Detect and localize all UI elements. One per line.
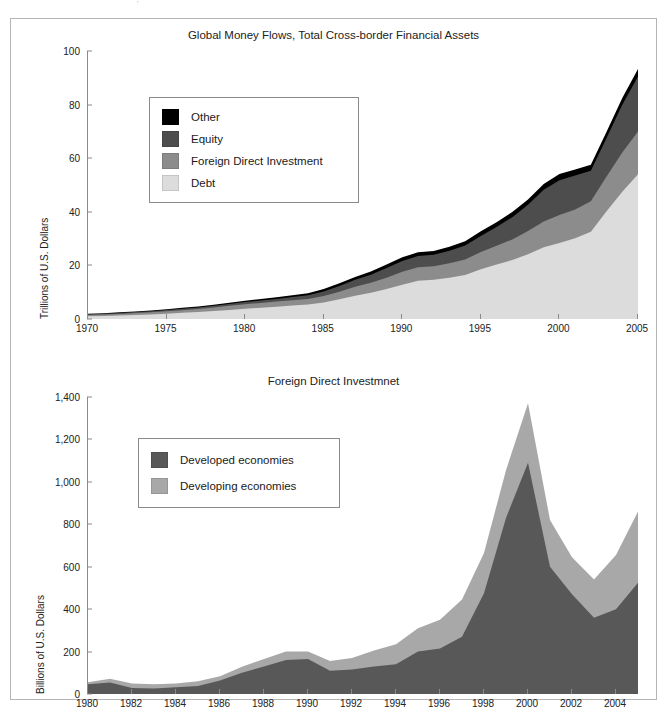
x-tick-mark	[395, 689, 396, 694]
x-tick-mark	[131, 689, 132, 694]
y-tick-label: 1,400	[55, 392, 87, 403]
x-tick-mark	[558, 314, 559, 319]
x-tick-label: 2000	[547, 323, 569, 334]
legend-label-equity: Equity	[191, 133, 223, 145]
x-tick-mark	[483, 689, 484, 694]
x-tick-mark	[527, 689, 528, 694]
x-tick-mark	[323, 314, 324, 319]
x-tick-label: 2000	[516, 698, 538, 709]
x-tick-label: 1992	[340, 698, 362, 709]
x-tick-mark	[307, 689, 308, 694]
legend-label-developing-economies: Developing economies	[180, 480, 296, 492]
x-tick-label: 1995	[469, 323, 491, 334]
x-tick-mark	[166, 314, 167, 319]
x-tick-label: 1998	[472, 698, 494, 709]
legend-item-debt[interactable]: Debt	[162, 172, 346, 194]
legend-swatch-debt	[162, 175, 179, 191]
x-tick-mark	[615, 689, 616, 694]
legend-item-equity[interactable]: Equity	[162, 128, 346, 150]
x-tick-mark	[480, 314, 481, 319]
legend-swatch-developed-economies	[151, 452, 168, 468]
legend-item-developed-economies[interactable]: Developed economies	[151, 447, 327, 473]
x-tick-label: 1990	[390, 323, 412, 334]
y-tick-label: 60	[69, 153, 87, 164]
legend-item-other[interactable]: Other	[162, 106, 346, 128]
legend-top: Other Equity Foreign Direct Investment D…	[149, 97, 359, 203]
legend-swatch-other	[162, 109, 179, 125]
x-tick-mark	[401, 314, 402, 319]
x-tick-label: 1994	[384, 698, 406, 709]
x-tick-label: 1975	[154, 323, 176, 334]
x-tick-label: 1986	[208, 698, 230, 709]
y-tick-label: 20	[69, 260, 87, 271]
figure-frame: Global Money Flows, Total Cross-border F…	[10, 18, 657, 700]
x-tick-mark	[87, 689, 88, 694]
y-tick-label: 600	[63, 561, 87, 572]
x-tick-label: 2004	[604, 698, 626, 709]
y-tick-mark	[87, 524, 92, 525]
legend-bottom: Developed economies Developing economies	[138, 438, 340, 508]
chart-panel-global-money-flows: Global Money Flows, Total Cross-border F…	[11, 19, 656, 349]
y-tick-label: 1,000	[55, 476, 87, 487]
x-tick-mark	[351, 689, 352, 694]
chart-title-top: Global Money Flows, Total Cross-border F…	[11, 29, 656, 41]
y-tick-mark	[87, 104, 92, 105]
x-tick-label: 1990	[296, 698, 318, 709]
x-tick-label: 1980	[233, 323, 255, 334]
legend-swatch-equity	[162, 131, 179, 147]
legend-item-fdi[interactable]: Foreign Direct Investment	[162, 150, 346, 172]
legend-label-debt: Debt	[191, 177, 215, 189]
y-tick-mark	[87, 51, 92, 52]
x-tick-label: 2002	[560, 698, 582, 709]
x-tick-label: 1982	[120, 698, 142, 709]
y-tick-label: 100	[63, 46, 87, 57]
y-tick-label: 200	[63, 646, 87, 657]
y-tick-label: 40	[69, 206, 87, 217]
x-tick-mark	[439, 689, 440, 694]
x-tick-label: 2005	[626, 323, 648, 334]
y-tick-mark	[87, 211, 92, 212]
y-axis-label-top: Trillions of U.S. Dollars	[39, 218, 50, 319]
x-tick-mark	[637, 314, 638, 319]
y-tick-mark	[87, 265, 92, 266]
y-tick-label: 400	[63, 604, 87, 615]
y-tick-mark	[87, 651, 92, 652]
page-header-fragment: · ···· ··· ·· ·· ··· ··· ,	[60, 0, 139, 4]
x-tick-label: 1980	[76, 698, 98, 709]
y-axis-label-bottom: Billions of U.S. Dollars	[35, 595, 46, 694]
chart-title-bottom: Foreign Direct Investmnet	[11, 375, 656, 387]
x-tick-label: 1988	[252, 698, 274, 709]
x-tick-label: 1996	[428, 698, 450, 709]
y-tick-mark	[87, 397, 92, 398]
x-tick-mark	[244, 314, 245, 319]
y-tick-label: 1,200	[55, 434, 87, 445]
x-tick-mark	[219, 689, 220, 694]
legend-label-developed-economies: Developed economies	[180, 454, 294, 466]
page-header-strip: · ···· ··· ·· ·· ··· ··· ,	[0, 0, 667, 16]
y-tick-mark	[87, 481, 92, 482]
x-tick-mark	[263, 689, 264, 694]
x-tick-mark	[87, 314, 88, 319]
x-tick-mark	[175, 689, 176, 694]
chart-panel-foreign-direct-investment: Foreign Direct Investmnet Billions of U.…	[11, 349, 656, 699]
x-tick-label: 1985	[312, 323, 334, 334]
y-tick-mark	[87, 566, 92, 567]
legend-swatch-fdi	[162, 153, 179, 169]
y-tick-label: 80	[69, 99, 87, 110]
legend-swatch-developing-economies	[151, 478, 168, 494]
legend-item-developing-economies[interactable]: Developing economies	[151, 473, 327, 499]
y-tick-mark	[87, 439, 92, 440]
legend-label-fdi: Foreign Direct Investment	[191, 155, 323, 167]
x-tick-label: 1970	[76, 323, 98, 334]
x-tick-label: 1984	[164, 698, 186, 709]
legend-label-other: Other	[191, 111, 220, 123]
y-tick-label: 800	[63, 519, 87, 530]
x-tick-mark	[571, 689, 572, 694]
y-tick-mark	[87, 609, 92, 610]
y-tick-mark	[87, 158, 92, 159]
